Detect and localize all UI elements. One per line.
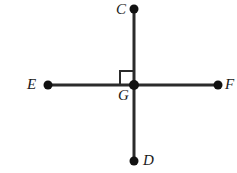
point-label-c: C [116,2,126,17]
point-label-e: E [27,77,36,92]
point-dot-d [130,157,139,166]
point-dot-f [214,81,223,90]
point-label-d: D [143,153,154,168]
point-dot-c [130,5,139,14]
point-label-f: F [225,77,234,92]
geometry-figure: C D E F G [0,0,237,173]
point-dot-g [129,80,139,90]
point-dot-e [44,81,53,90]
point-label-g: G [118,88,129,103]
